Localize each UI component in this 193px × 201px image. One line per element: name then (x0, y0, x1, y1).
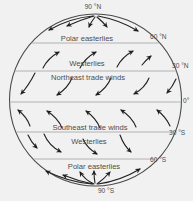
wind-arrow (28, 135, 37, 148)
label-pole-north: 90 °N (85, 3, 102, 10)
label-latitude-30n: 30 °N (172, 62, 189, 69)
wind-arrow (120, 135, 131, 152)
label-latitude-equator: 0° (183, 97, 190, 104)
wind-circulation-diagram: 90 °N 90 °S 60 °N 30 °N 0° 30 °S 60 °S P… (0, 0, 193, 201)
wind-arrow (97, 17, 107, 27)
wind-arrows-polar-easterlies-south (46, 169, 140, 184)
wind-arrow (134, 78, 149, 94)
label-westerlies-north: Westerlies (69, 59, 105, 68)
wind-arrow (117, 51, 133, 67)
wind-arrow (18, 110, 30, 126)
globe-wind-diagram-canvas: 90 °N 90 °S 60 °N 30 °N 0° 30 °S 60 °S P… (0, 0, 193, 201)
wind-arrow (167, 79, 176, 93)
label-westerlies-south: Westerlies (71, 137, 107, 146)
label-southeast-trade-winds: Southeast trade winds (52, 123, 127, 132)
label-northeast-trade-winds: Northeast trade winds (51, 73, 125, 82)
label-polar-easterlies-north: Polar easterlies (61, 34, 114, 43)
wind-arrow (142, 56, 151, 65)
wind-arrow (89, 17, 95, 27)
wind-arrows-polar-easterlies-north (49, 16, 138, 31)
label-latitude-60s: 60 °S (150, 156, 167, 163)
wind-arrow (44, 134, 61, 152)
wind-arrow (157, 110, 170, 126)
wind-arrow (43, 52, 59, 68)
label-polar-easterlies-south: Polar easterlies (68, 162, 121, 171)
label-latitude-60n: 60 °N (150, 33, 167, 40)
wind-arrow (21, 73, 35, 94)
wind-arrow (94, 171, 95, 183)
label-pole-south: 90 °S (98, 187, 115, 194)
label-latitude-30s: 30 °S (169, 129, 186, 136)
